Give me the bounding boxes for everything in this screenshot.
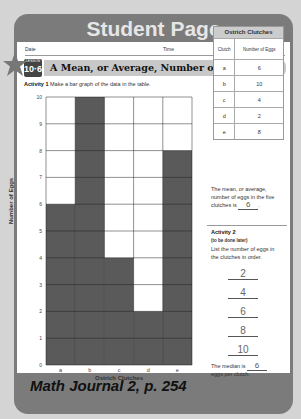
- ordered-value: 2: [228, 268, 258, 280]
- y-tick: 8: [39, 148, 42, 154]
- y-tick: 10: [36, 94, 42, 100]
- median-answer: 6: [247, 362, 267, 371]
- y-tick: 7: [39, 174, 42, 180]
- x-tick: b: [88, 367, 91, 373]
- y-tick: 5: [39, 228, 42, 234]
- cell: b: [214, 76, 235, 92]
- activity2-note: (to be done later): [211, 237, 283, 245]
- ordered-value: 4: [228, 287, 258, 299]
- header-number: Number of Eggs: [235, 39, 283, 60]
- star-icon: [2, 51, 28, 77]
- table-row: b10: [214, 76, 283, 92]
- table-header-row: Clutch Number of Eggs: [214, 39, 283, 60]
- x-tick: e: [176, 367, 179, 373]
- ostrich-clutches-table: Ostrich Clutches Clutch Number of Eggs a…: [213, 26, 284, 140]
- cell: 10: [235, 76, 283, 92]
- cell: c: [214, 92, 235, 108]
- mean-statement: The mean, or average, number of eggs in …: [211, 186, 283, 210]
- cell: e: [214, 124, 235, 140]
- x-tick: d: [147, 367, 150, 373]
- median-statement: The median is 6 eggs per clutch.: [211, 362, 289, 379]
- x-axis-label: Ostrich Clutches: [95, 375, 144, 381]
- table-row: c4: [214, 92, 283, 108]
- cell: 4: [235, 92, 283, 108]
- median-suffix: eggs per clutch.: [211, 371, 250, 377]
- y-tick: 3: [39, 282, 42, 288]
- table-row: e8: [214, 124, 283, 140]
- activity2-instruction: List the number of eggs in the clutches …: [211, 246, 283, 261]
- cell: d: [214, 108, 235, 124]
- cell: 2: [235, 108, 283, 124]
- median-text: The median is: [211, 363, 246, 369]
- y-tick: 9: [39, 121, 42, 127]
- x-tick: a: [59, 367, 63, 373]
- y-tick: 2: [39, 308, 42, 314]
- table-title: Ostrich Clutches: [214, 27, 283, 38]
- cell: 6: [235, 60, 283, 76]
- activity2-label: Activity 2: [211, 229, 283, 237]
- y-tick: 6: [39, 201, 42, 207]
- activity2: Activity 2 (to be done later) List the n…: [211, 229, 283, 261]
- y-tick: 0: [39, 362, 42, 368]
- ordered-value: 8: [228, 325, 258, 337]
- ordered-value: 6: [228, 306, 258, 318]
- divider: [207, 225, 287, 226]
- table-row: d2: [214, 108, 283, 124]
- cell: a: [214, 60, 235, 76]
- ordered-value: 10: [228, 344, 258, 356]
- y-tick: 1: [39, 335, 42, 341]
- table-row: a6: [214, 60, 283, 76]
- x-tick: c: [118, 367, 121, 373]
- y-axis-label: Number of Eggs: [8, 161, 14, 241]
- header-clutch: Clutch: [214, 39, 235, 60]
- cell: 8: [235, 124, 283, 140]
- y-tick: 4: [39, 255, 42, 261]
- mean-answer: 6: [238, 201, 258, 210]
